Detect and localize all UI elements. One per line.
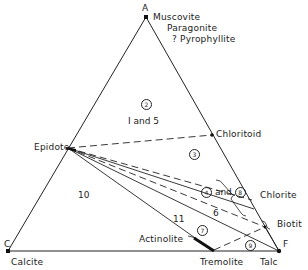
vertex-a-label: A: [142, 4, 148, 13]
field-4-and-8: 4 and 8: [201, 187, 246, 198]
talc-label: Talc: [260, 258, 278, 267]
vertex-f-label: F: [283, 240, 288, 249]
chlorite-label: Chlorite: [260, 191, 297, 200]
biotite-marker: [264, 226, 267, 229]
chloritoid-marker: [210, 133, 214, 137]
muscovite-label: Muscovite: [153, 13, 200, 22]
tie-epidote-chloritoid: [68, 135, 212, 148]
field-10: 10: [78, 191, 89, 200]
vertex-c-label: C: [4, 240, 10, 249]
pyrophyllite-label: ? Pyrophyllite: [172, 35, 236, 44]
field-1-and-5: I and 5: [128, 117, 159, 126]
actinolite-label: Actinolite: [139, 235, 183, 244]
tremolite-label: Tremolite: [200, 258, 243, 267]
vertex-f-marker: [277, 249, 281, 253]
actinolite-tremolite-series: [194, 238, 214, 251]
field-6: 6: [213, 209, 219, 218]
field-7: 7: [197, 225, 208, 236]
biotite-label: Biotit: [277, 220, 302, 229]
chloritoid-label: Chloritoid: [216, 130, 261, 139]
field-2: 2: [141, 99, 152, 110]
calcite-label: Calcite: [11, 258, 43, 267]
paragonite-label: Paragonite: [167, 24, 217, 33]
epidote-label: Epidote: [34, 143, 70, 152]
field-11: 11: [173, 215, 184, 224]
vertex-c-marker: [6, 249, 10, 253]
diagram-lines: [0, 0, 308, 270]
ternary-diagram: A Muscovite Paragonite ? Pyrophyllite C …: [0, 0, 308, 270]
tie-tremolite-biotite: [214, 227, 265, 250]
vertex-a-marker: [144, 15, 148, 19]
field-3: 3: [189, 149, 200, 160]
field-9: 9: [245, 240, 256, 251]
edge-a-c: [8, 17, 146, 251]
